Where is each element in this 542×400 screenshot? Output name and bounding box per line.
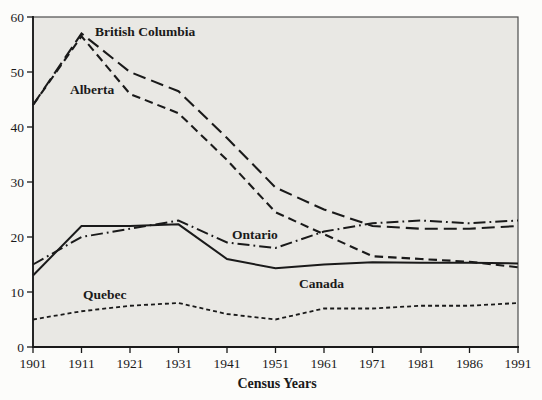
series-label-alberta: Alberta — [70, 82, 114, 97]
x-tick-label-1901: 1901 — [20, 356, 47, 371]
x-tick-label-1921: 1921 — [117, 356, 144, 371]
x-tick-label-1911: 1911 — [68, 356, 95, 371]
y-tick-label-50: 50 — [11, 65, 25, 80]
x-tick-label-1961: 1961 — [311, 356, 338, 371]
y-tick-label-0: 0 — [17, 340, 24, 355]
x-tick-label-1971: 1971 — [359, 356, 386, 371]
y-tick-label-60: 60 — [11, 10, 25, 25]
y-tick-label-30: 30 — [11, 175, 25, 190]
y-tick-label-40: 40 — [11, 120, 25, 135]
y-tick-label-10: 10 — [11, 285, 25, 300]
series-label-british-columbia: British Columbia — [95, 24, 195, 39]
y-tick-label-20: 20 — [11, 230, 25, 245]
x-axis-title: Census Years — [36, 376, 518, 392]
chart-canvas: 0102030405060190119111921193119411951196… — [0, 0, 542, 400]
series-label-ontario: Ontario — [232, 227, 278, 242]
series-label-quebec: Quebec — [83, 287, 127, 302]
series-label-canada: Canada — [299, 276, 344, 291]
x-tick-label-1991: 1991 — [505, 356, 532, 371]
x-tick-label-1981: 1981 — [408, 356, 435, 371]
x-tick-label-1941: 1941 — [214, 356, 241, 371]
census-line-chart: 0102030405060190119111921193119411951196… — [0, 0, 542, 400]
x-tick-label-1931: 1931 — [165, 356, 192, 371]
x-tick-label-1951: 1951 — [262, 356, 289, 371]
x-tick-label-1986: 1986 — [456, 356, 483, 371]
